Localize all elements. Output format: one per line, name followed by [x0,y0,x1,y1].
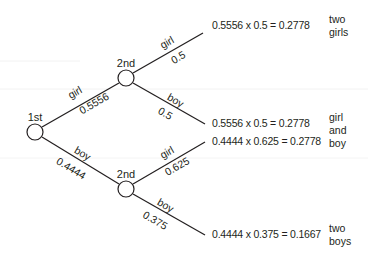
result-girl-boy: 0.5556 x 0.5 = 0.2778 [212,118,310,129]
outcome-line: two [329,13,348,26]
outcome-girl-and-boy: girl and boy [329,111,347,150]
probability-tree-diagram: 1st 2nd 2nd girl 0.5556 boy 0.4444 girl … [0,0,368,259]
node-second-lower-label: 2nd [117,169,135,180]
outcome-line: girls [329,26,348,39]
outcome-line: girl [329,111,347,124]
outcome-line: boy [329,137,347,150]
outcome-two-boys: two boys [329,222,351,248]
tree-lines [0,0,368,259]
outcome-line: and [329,124,347,137]
node-second-upper [118,70,134,86]
node-second-upper-label: 2nd [117,58,135,69]
node-first [27,124,43,140]
node-second-lower [118,181,134,197]
outcome-line: two [329,222,351,235]
node-first-label: 1st [28,112,43,123]
result-girl-girl: 0.5556 x 0.5 = 0.2778 [212,20,310,31]
outcome-line: boys [329,235,351,248]
outcome-two-girls: two girls [329,13,348,39]
result-boy-girl: 0.4444 x 0.625 = 0.2778 [212,136,321,147]
result-boy-boy: 0.4444 x 0.375 = 0.1667 [212,229,321,240]
